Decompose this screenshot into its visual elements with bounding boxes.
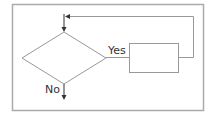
entry-arrowhead-icon [62, 27, 67, 32]
flowchart-diagram: Yes No [0, 0, 212, 118]
yes-label: Yes [108, 45, 126, 56]
flowchart-svg [0, 0, 212, 118]
no-arrowhead-icon [62, 95, 67, 100]
decision-diamond [22, 32, 106, 84]
no-label: No [45, 84, 60, 95]
process-box [130, 44, 179, 73]
loop-back-arrowhead-icon [65, 14, 70, 19]
